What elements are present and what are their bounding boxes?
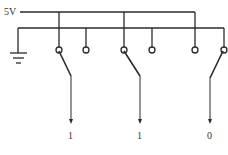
switch-3 — [192, 12, 227, 124]
switch-1 — [56, 12, 89, 124]
switch-circuit-diagram — [0, 0, 228, 155]
output-label-2: 1 — [137, 131, 142, 141]
output-label-1: 1 — [68, 131, 73, 141]
switch-2 — [121, 12, 155, 124]
ground-icon — [10, 28, 27, 63]
supply-voltage-label: 5V — [4, 7, 16, 17]
output-label-3: 0 — [207, 131, 212, 141]
